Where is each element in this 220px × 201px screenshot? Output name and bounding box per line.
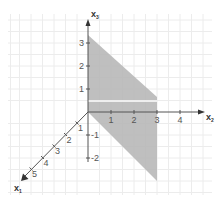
x1-tick-4: 4: [44, 158, 49, 168]
x3-tick-2: 2: [79, 61, 84, 71]
x3-tick-neg2: -2: [91, 153, 99, 163]
x1-tick-2: 2: [67, 135, 72, 145]
x2-tick-4: 4: [178, 115, 183, 125]
coordinate-diagram: 1 2 3 -1 -2 x3 1 2 3 4 x2 1 2 3 4 5 x1: [0, 0, 220, 201]
x1-tick-1: 1: [78, 123, 83, 133]
x3-axis-label: x3: [91, 9, 99, 20]
x2-axis-label: x2: [206, 112, 214, 123]
x3-tick-1: 1: [79, 84, 84, 94]
x1-axis-label: x1: [14, 183, 22, 194]
x1-tick-5: 5: [32, 169, 37, 179]
x1-arrow-icon: [21, 174, 29, 182]
x1-tick-3: 3: [55, 146, 60, 156]
x2-tick-3: 3: [155, 115, 160, 125]
x2-arrow-icon: [198, 110, 205, 115]
x3-tick-3: 3: [79, 38, 84, 48]
x2-tick-1: 1: [109, 115, 114, 125]
x3-tick-neg1: -1: [91, 130, 99, 140]
x2-tick-2: 2: [132, 115, 137, 125]
